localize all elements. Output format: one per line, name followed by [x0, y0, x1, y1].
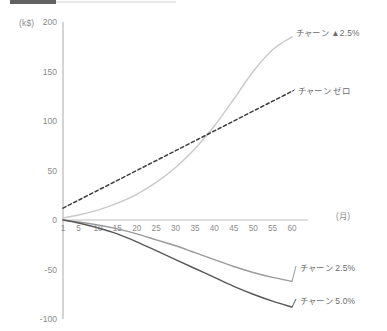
- y-tick-label: -50: [45, 265, 58, 275]
- y-tick-label: 200: [43, 17, 58, 27]
- y-axis-tick-labels: 200150100500-50-100: [40, 17, 57, 324]
- x-tick-label: 40: [210, 224, 220, 233]
- series-label-churn-zero: チャーン ゼロ: [298, 84, 350, 96]
- line-chart: 200150100500-50-100 15101520253035404550…: [0, 0, 387, 331]
- x-tick-label: 55: [268, 224, 278, 233]
- series-label-churn-up-2-5: チャーン ▲2.5%: [296, 26, 360, 38]
- y-tick-label: 0: [52, 215, 57, 225]
- y-tick-label: 100: [43, 116, 58, 126]
- x-tick-label: 50: [249, 224, 259, 233]
- x-tick-label: 25: [152, 224, 162, 233]
- y-axis-unit-label: (k$): [19, 18, 34, 28]
- x-tick-label: 20: [132, 224, 142, 233]
- series-label-leader: [292, 299, 296, 307]
- x-tick-label: 35: [190, 224, 200, 233]
- series-label-churn-2-5: チャーン 2.5%: [300, 261, 355, 273]
- chart-axes: [63, 22, 308, 319]
- series-line: [63, 220, 292, 307]
- x-axis-unit-label: (月): [336, 209, 350, 221]
- chart-series-group: [63, 37, 292, 307]
- chart-screenshot-root: 200150100500-50-100 15101520253035404550…: [0, 0, 387, 331]
- x-tick-label: 1: [61, 224, 66, 233]
- x-tick-label: 45: [229, 224, 239, 233]
- y-tick-label: -100: [40, 314, 57, 324]
- x-tick-label: 5: [76, 224, 81, 233]
- x-tick-label: 60: [287, 224, 297, 233]
- series-line: [63, 91, 292, 208]
- series-label-leader-zero: [292, 89, 296, 91]
- y-tick-label: 150: [43, 67, 58, 77]
- series-label-churn-5-0: チャーン 5.0%: [300, 294, 355, 306]
- x-tick-label: 30: [171, 224, 181, 233]
- series-label-leader-lines: [292, 89, 296, 307]
- series-label-leader: [292, 266, 296, 281]
- y-tick-label: 50: [47, 166, 57, 176]
- chart-canvas: 200150100500-50-100 15101520253035404550…: [0, 0, 387, 331]
